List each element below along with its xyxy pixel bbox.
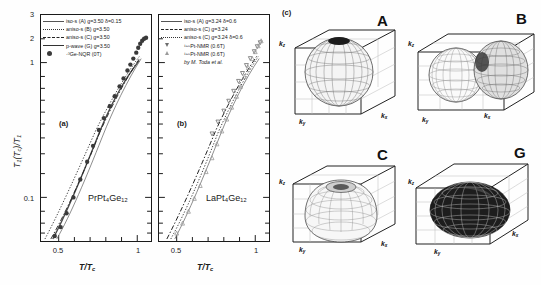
- fermi-surface-b: B kz ky kx: [408, 0, 541, 142]
- legend-line-solid-icon: [161, 21, 182, 23]
- fermi-surface-label-g: G: [514, 144, 526, 161]
- ytick-3: 3: [16, 10, 34, 19]
- xtick-0-5-a: 0.5: [48, 246, 68, 255]
- kx-axis-label-a: kx: [381, 112, 387, 120]
- x-axis-label-a: T/Tc: [79, 262, 95, 272]
- fermi-surface-label-c: C: [377, 146, 388, 163]
- legend-panel-a: iso-s (A) g=3.50 δ=0.15 aniso-s (B) g=3.…: [43, 17, 121, 57]
- legend-item: p-wave (G) g=3.50: [43, 41, 121, 49]
- legend-line-thick-icon: [43, 45, 64, 47]
- xtick-0-5-b: 0.5: [166, 246, 186, 255]
- fermi-surface-g: G kz ky kx: [408, 142, 541, 284]
- legend-line-solid-icon: [43, 21, 64, 23]
- legend-label: aniso-s (C) g=3.24 δ=0.6: [184, 34, 243, 40]
- legend-blank-key: [161, 61, 182, 62]
- legend-label: ⁷³Ge-NQR (0T): [66, 51, 101, 57]
- fermi-surface-c-graphic: [277, 142, 410, 284]
- legend-label: p-wave (G) g=3.50: [66, 43, 110, 49]
- legend-label: iso-s (A) g=3.50 δ=0.15: [66, 18, 121, 24]
- kz-axis-label-b: kz: [408, 40, 414, 48]
- legend-item: aniso-s (C) g=3.24: [161, 25, 243, 33]
- legend-label: iso-s (A) g=3.24 δ=0.6: [184, 18, 236, 24]
- legend-item: aniso-s (C) g=3.24 δ=0.6: [161, 33, 243, 41]
- kx-axis-label-b: kx: [484, 112, 490, 120]
- legend-line-dashdot-icon: [43, 37, 64, 39]
- y-axis-label: T1(Tc)/T1: [12, 135, 22, 168]
- panel-b-id: (b): [177, 119, 187, 128]
- legend-label: by M. Toda et al.: [184, 59, 223, 65]
- plot-panel-b: iso-s (A) g=3.24 δ=0.6 aniso-s (C) g=3.2…: [158, 14, 270, 242]
- panel-a-compound: PrPt₄Ge₁₂: [88, 193, 128, 203]
- kz-axis-label-c: kz: [279, 178, 285, 186]
- legend-label: ¹⁹⁵Pt-NMR (0.6T): [184, 43, 225, 49]
- legend-marker-triangle-down-icon: [165, 43, 169, 47]
- ky-axis-label-b: ky: [422, 116, 428, 124]
- legend-item: ¹⁹⁵Pt-NMR (0.6T): [161, 49, 243, 57]
- legend-label: aniso-s (B) g=3.50: [66, 26, 109, 32]
- kz-axis-label-g: kz: [408, 178, 414, 186]
- legend-line-dotted-icon: [43, 29, 64, 31]
- figure-root: iso-s (A) g=3.50 δ=0.15 aniso-s (B) g=3.…: [0, 0, 541, 285]
- legend-item: aniso-s (B) g=3.50: [43, 25, 121, 33]
- legend-item: by M. Toda et al.: [161, 57, 243, 65]
- fermi-surface-a: A kz ky kx: [277, 0, 410, 142]
- ky-axis-label-c: ky: [299, 246, 305, 254]
- kx-axis-label-c: kx: [381, 240, 387, 248]
- legend-line-dashdot-icon: [161, 29, 182, 31]
- fermi-surface-a-graphic: [277, 0, 410, 142]
- fermi-surface-label-a: A: [377, 12, 388, 29]
- ky-axis-label-a: ky: [299, 118, 305, 126]
- legend-item: ¹⁹⁵Pt-NMR (0.6T): [161, 41, 243, 49]
- legend-item: iso-s (A) g=3.50 δ=0.15: [43, 17, 121, 25]
- legend-label: aniso-s (C) g=3.24: [184, 26, 228, 32]
- ytick-2: 2: [16, 34, 34, 43]
- legend-panel-b: iso-s (A) g=3.24 δ=0.6 aniso-s (C) g=3.2…: [161, 17, 243, 66]
- fermi-surface-g-graphic: [408, 142, 541, 284]
- kz-axis-label-a: kz: [279, 40, 285, 48]
- legend-line-dotted-icon: [161, 37, 182, 39]
- legend-marker-triangle-up-icon: [165, 51, 169, 55]
- plot-panel-a: iso-s (A) g=3.50 δ=0.15 aniso-s (B) g=3.…: [40, 14, 152, 242]
- ytick-0-1: 0.1: [10, 194, 34, 203]
- fermi-surface-label-b: B: [516, 10, 527, 27]
- legend-item: iso-s (A) g=3.24 δ=0.6: [161, 17, 243, 25]
- legend-item: aniso-s (C) g=3.50: [43, 33, 121, 41]
- kx-axis-label-g: kx: [512, 230, 518, 238]
- ytick-1: 1: [16, 58, 34, 67]
- x-axis-label-b: T/Tc: [197, 262, 213, 272]
- panel-a-id: (a): [59, 119, 68, 128]
- ky-axis-label-g: ky: [434, 248, 440, 256]
- legend-label: ¹⁹⁵Pt-NMR (0.6T): [184, 51, 225, 57]
- xtick-1-b: 1: [246, 246, 266, 255]
- panel-b-compound: LaPt₄Ge₁₂: [206, 193, 247, 203]
- legend-label: aniso-s (C) g=3.50: [66, 34, 110, 40]
- xtick-1-a: 1: [128, 246, 148, 255]
- legend-item: ⁷³Ge-NQR (0T): [43, 49, 121, 57]
- legend-marker-circle-icon: [47, 51, 52, 56]
- fermi-surface-c: C kz ky kx: [277, 142, 410, 284]
